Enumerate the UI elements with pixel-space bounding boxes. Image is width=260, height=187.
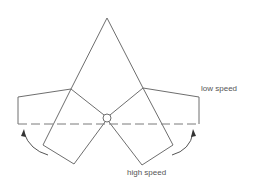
high-speed-label: high speed [127,168,166,177]
right-arrowhead-icon [191,129,196,137]
right-wing-low-speed [110,88,199,124]
triangle-left-side [43,18,107,145]
left-arrowhead-icon [21,129,26,137]
swept-wing-diagram [0,0,260,187]
left-wing-low-speed [18,89,104,124]
pivot-circle [103,114,111,122]
right-wing-high-speed [109,122,173,165]
low-speed-label: low speed [201,84,237,93]
right-sweep-arrow-icon [172,133,193,155]
triangle-right-side [107,18,173,145]
left-sweep-arrow-icon [24,133,48,155]
left-wing-high-speed [43,122,105,164]
